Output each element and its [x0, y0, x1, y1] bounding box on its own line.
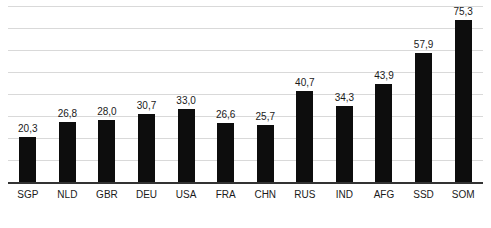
- bar: [138, 114, 155, 182]
- x-axis-tick-label: IND: [325, 188, 365, 208]
- x-axis-tick-label: SOM: [443, 188, 483, 208]
- bar-value-label: 25,7: [256, 111, 275, 122]
- x-axis-tick-label: AFG: [364, 188, 404, 208]
- x-axis-tick-label: FRA: [206, 188, 246, 208]
- bar-value-label: 28,0: [97, 106, 116, 117]
- bar: [257, 125, 274, 182]
- bar-group: 30,7: [127, 6, 167, 182]
- bar-value-label: 40,7: [295, 77, 314, 88]
- bar: [178, 109, 195, 182]
- x-axis-tick-label: CHN: [245, 188, 285, 208]
- x-axis-tick-label: RUS: [285, 188, 325, 208]
- bar-value-label: 43,9: [374, 70, 393, 81]
- x-axis-tick-label: SSD: [404, 188, 444, 208]
- bar-group: 20,3: [8, 6, 48, 182]
- bar-value-label: 34,3: [335, 92, 354, 103]
- bar-value-label: 26,8: [58, 108, 77, 119]
- bar-value-label: 20,3: [18, 123, 37, 134]
- x-axis-labels: SGP NLD GBR DEU USA FRA CHN RUS IND AFG …: [8, 188, 483, 208]
- bar: [217, 123, 234, 182]
- plot-area: 20,3 26,8 28,0 30,7 33,0 26,6: [8, 6, 483, 184]
- x-axis-tick-label: SGP: [8, 188, 48, 208]
- bar-value-label: 30,7: [137, 100, 156, 111]
- bar-group: 26,8: [48, 6, 88, 182]
- bar: [415, 53, 432, 182]
- x-axis-tick-label: NLD: [48, 188, 88, 208]
- bar: [19, 137, 36, 182]
- bar-group: 28,0: [87, 6, 127, 182]
- bar: [375, 84, 392, 182]
- bar-group: 34,3: [325, 6, 365, 182]
- bar-group: 40,7: [285, 6, 325, 182]
- bar-series: 20,3 26,8 28,0 30,7 33,0 26,6: [8, 6, 483, 182]
- bar-chart: 20,3 26,8 28,0 30,7 33,0 26,6: [0, 0, 491, 228]
- bar-value-label: 33,0: [176, 95, 195, 106]
- bar-value-label: 75,3: [453, 6, 472, 17]
- bar: [455, 20, 472, 182]
- bar-value-label: 57,9: [414, 39, 433, 50]
- x-axis-tick-label: GBR: [87, 188, 127, 208]
- bar: [296, 91, 313, 182]
- x-axis-tick-label: DEU: [127, 188, 167, 208]
- bar-group: 43,9: [364, 6, 404, 182]
- bar: [59, 122, 76, 182]
- bar-group: 26,6: [206, 6, 246, 182]
- bar-group: 57,9: [404, 6, 444, 182]
- bar-group: 25,7: [245, 6, 285, 182]
- bar-group: 33,0: [166, 6, 206, 182]
- bar: [98, 120, 115, 182]
- bar: [336, 106, 353, 182]
- bar-value-label: 26,6: [216, 109, 235, 120]
- x-axis-tick-label: USA: [166, 188, 206, 208]
- bar-group: 75,3: [443, 6, 483, 182]
